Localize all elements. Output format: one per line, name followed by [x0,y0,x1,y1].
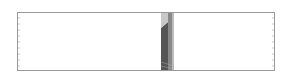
light-band-right [172,13,174,70]
mid-band [168,13,172,70]
plot-frame [18,13,275,71]
dark-band [161,22,168,70]
right-ticks [272,18,274,66]
left-ticks [18,18,20,66]
gaussian-diagram [0,0,291,82]
